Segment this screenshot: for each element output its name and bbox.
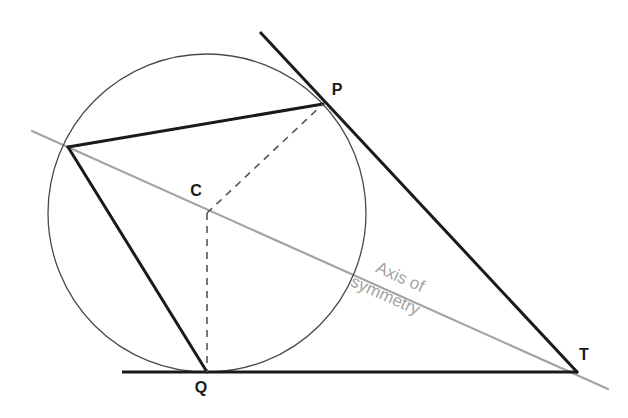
diagram-canvas: P C Q T Axis of symmetry bbox=[0, 0, 628, 418]
geometry-figure: P C Q T Axis of symmetry bbox=[0, 0, 628, 418]
point-label-t: T bbox=[579, 346, 589, 363]
point-label-c: C bbox=[190, 182, 202, 199]
point-label-q: Q bbox=[195, 379, 207, 396]
point-label-p: P bbox=[332, 81, 343, 98]
